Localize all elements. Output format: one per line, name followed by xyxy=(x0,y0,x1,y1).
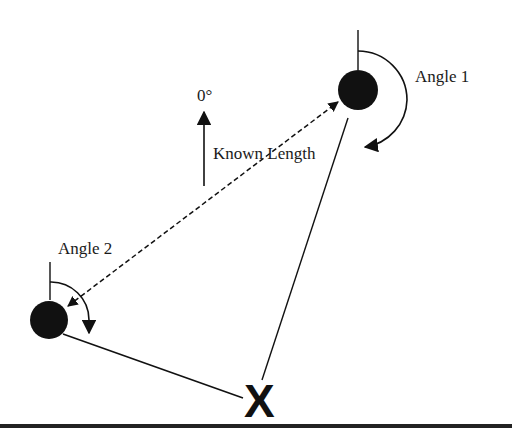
station-2-marker xyxy=(30,301,68,339)
angle-1-label: Angle 1 xyxy=(415,68,469,85)
target-marker: X xyxy=(244,378,275,424)
known-length-label: Known Length xyxy=(213,145,315,162)
triangulation-diagram xyxy=(0,0,512,434)
angle-2-label: Angle 2 xyxy=(58,240,112,257)
station-1-marker xyxy=(338,70,378,110)
sightline-2 xyxy=(63,334,243,398)
known-length-line xyxy=(68,102,338,306)
north-label: 0° xyxy=(197,87,212,104)
